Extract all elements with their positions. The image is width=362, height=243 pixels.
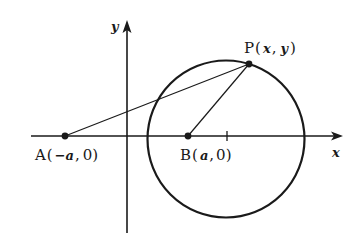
- y-axis-label: y: [110, 19, 120, 34]
- label-B-x: a: [200, 148, 208, 163]
- label-A-x: −a: [55, 148, 74, 163]
- x-axis-label: x: [331, 145, 340, 160]
- label-point-B: B(a,0): [180, 146, 232, 164]
- geometry-diagram: x y A(−a,0) B(a,0) P(x,y): [0, 0, 362, 243]
- svg-text:A(−a,0): A(−a,0): [34, 146, 98, 164]
- point-P: [246, 61, 253, 68]
- label-A-name: A: [34, 146, 46, 164]
- label-A-close: ): [92, 146, 98, 164]
- segment-AP: [65, 64, 249, 136]
- label-P-close: ): [290, 39, 296, 57]
- label-P-name: P: [244, 39, 254, 57]
- y-axis: [123, 20, 132, 233]
- label-A-open: (: [47, 146, 53, 164]
- label-B-y: 0: [216, 146, 226, 164]
- svg-text:P(x,y): P(x,y): [244, 39, 296, 57]
- point-B: [185, 133, 192, 140]
- label-A-y: 0: [83, 146, 93, 164]
- label-P-open: (: [255, 39, 261, 57]
- label-P-x: x: [262, 41, 271, 56]
- label-B-open: (: [192, 146, 198, 164]
- circle: [148, 61, 305, 218]
- label-point-A: A(−a,0): [34, 146, 98, 164]
- label-B-close: ): [226, 146, 232, 164]
- segment-BP: [188, 64, 249, 136]
- label-B-name: B: [180, 146, 191, 164]
- label-P-y: y: [280, 41, 290, 56]
- svg-text:B(a,0): B(a,0): [180, 146, 232, 164]
- point-A: [62, 133, 69, 140]
- label-point-P: P(x,y): [244, 39, 296, 57]
